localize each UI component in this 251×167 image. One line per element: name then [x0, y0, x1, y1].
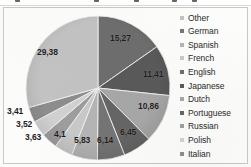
chart-legend: OtherGermanSpanishFrenchEnglishJapaneseD…	[180, 11, 248, 162]
scan-artifact-mark	[15, 0, 20, 2]
legend-item-japanese[interactable]: Japanese	[180, 79, 224, 92]
legend-label: Other	[188, 13, 209, 23]
slice-label-dutch: 10,86	[138, 102, 159, 111]
legend-swatch-icon	[180, 97, 184, 101]
scan-artifact-mark	[192, 0, 197, 2]
slice-label-russian: 3,63	[25, 133, 41, 142]
legend-label: Japanese	[188, 81, 224, 91]
legend-label: Portuguese	[188, 108, 231, 118]
legend-label: German	[188, 26, 218, 36]
scan-artifact-rule	[0, 5, 251, 6]
scan-artifact-mark	[134, 0, 139, 2]
legend-swatch-icon	[180, 138, 184, 142]
slice-label-japanese: 11,41	[143, 70, 163, 79]
slice-label-spanish: 5,83	[74, 136, 90, 145]
slice-label-polish: 3,52	[16, 120, 32, 129]
legend-item-russian[interactable]: Russian	[180, 120, 218, 133]
legend-swatch-icon	[180, 16, 184, 20]
legend-swatch-icon	[180, 70, 184, 74]
slice-label-french: 4,1	[54, 130, 66, 139]
legend-swatch-icon	[180, 56, 184, 60]
slice-label-german: 6,14	[97, 136, 113, 145]
scan-artifact-strip	[0, 0, 251, 7]
legend-swatch-icon	[180, 152, 184, 156]
legend-item-english[interactable]: English	[180, 65, 216, 78]
legend-item-portuguese[interactable]: Portuguese	[180, 106, 231, 119]
scan-artifact-mark	[172, 0, 177, 2]
legend-item-other[interactable]: Other	[180, 11, 209, 24]
legend-swatch-icon	[180, 29, 184, 33]
legend-item-german[interactable]: German	[180, 25, 218, 38]
legend-label: Russian	[188, 121, 218, 131]
pie-chart-page: 15,27 11,41 10,86 6,45 6,14 5,83 4,1 3,6…	[0, 0, 251, 167]
legend-label: Italian	[188, 149, 210, 159]
legend-swatch-icon	[180, 124, 184, 128]
legend-item-spanish[interactable]: Spanish	[180, 38, 218, 51]
slice-label-italian: 3,41	[7, 107, 23, 116]
legend-label: Polish	[188, 135, 211, 145]
legend-label: French	[188, 53, 214, 63]
legend-item-french[interactable]: French	[180, 52, 214, 65]
pie-plot-area: 15,27 11,41 10,86 6,45 6,14 5,83 4,1 3,6…	[4, 8, 176, 163]
slice-label-portuguese: 6,45	[120, 128, 136, 137]
legend-label: Spanish	[188, 40, 218, 50]
slice-label-other: 29,38	[37, 48, 58, 57]
legend-item-polish[interactable]: Polish	[180, 133, 211, 146]
slice-label-english: 15,27	[110, 34, 131, 43]
legend-item-italian[interactable]: Italian	[180, 147, 210, 160]
chart-frame: 15,27 11,41 10,86 6,45 6,14 5,83 4,1 3,6…	[3, 7, 248, 164]
legend-swatch-icon	[180, 111, 184, 115]
legend-label: English	[188, 67, 216, 77]
scan-artifact-mark	[94, 0, 99, 2]
legend-swatch-icon	[180, 43, 184, 47]
legend-swatch-icon	[180, 84, 184, 88]
legend-item-dutch[interactable]: Dutch	[180, 93, 210, 106]
legend-label: Dutch	[188, 94, 210, 104]
